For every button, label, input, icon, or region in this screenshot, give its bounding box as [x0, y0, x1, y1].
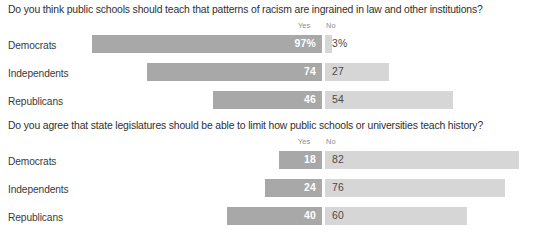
- value-label-no: 60: [332, 209, 344, 223]
- table-row: Independents 74 27: [0, 60, 555, 88]
- legend-label-no: No: [326, 137, 336, 146]
- value-label-no: 27: [332, 65, 344, 79]
- value-label-no: 54: [332, 93, 344, 107]
- bar-no: [325, 91, 453, 109]
- value-label-yes: 18: [262, 153, 316, 167]
- value-label-yes: 46: [262, 93, 316, 107]
- bar-no: [325, 151, 519, 169]
- row-label-republicans: Republicans: [8, 95, 63, 108]
- value-label-no: 82: [332, 153, 344, 167]
- row-label-democrats: Democrats: [8, 155, 56, 168]
- chart-rows: Democrats 18 82 Independents 24 76 Repub…: [0, 148, 555, 232]
- table-row: Republicans 46 54: [0, 88, 555, 116]
- value-label-yes: 24: [262, 181, 316, 195]
- legend-label-no: No: [326, 21, 336, 30]
- row-label-independents: Independents: [8, 67, 69, 80]
- value-label-no: 76: [332, 181, 344, 195]
- bar-no: [325, 207, 467, 225]
- bar-no: [325, 179, 505, 197]
- row-label-republicans: Republicans: [8, 211, 63, 224]
- table-row: Independents 24 76: [0, 176, 555, 204]
- value-label-no: 3%: [332, 37, 347, 51]
- chart-rows: Democrats 97% 3% Independents 74 27 Repu…: [0, 32, 555, 116]
- table-row: Democrats 18 82: [0, 148, 555, 176]
- chart-question-title: Do you think public schools should teach…: [8, 4, 553, 16]
- value-label-yes: 97%: [262, 37, 316, 51]
- value-label-yes: 74: [262, 65, 316, 79]
- row-label-democrats: Democrats: [8, 39, 56, 52]
- table-row: Democrats 97% 3%: [0, 32, 555, 60]
- legend-label-yes: Yes: [298, 21, 310, 30]
- legend-label-yes: Yes: [298, 137, 310, 146]
- table-row: Republicans 40 60: [0, 204, 555, 232]
- chart-question-title: Do you agree that state legislatures sho…: [8, 120, 553, 132]
- value-label-yes: 40: [262, 209, 316, 223]
- row-label-independents: Independents: [8, 183, 69, 196]
